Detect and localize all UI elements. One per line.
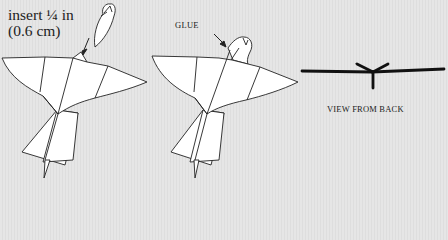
bird-figure-glue [152,37,298,178]
origami-bird-diagram: insert ¼ in (0.6 cm) GLUE VIEW FROM BACK [0,0,448,184]
insert-metric-label: (0.6 cm) [8,22,61,39]
insert-annotation: insert ¼ in (0.6 cm) [8,7,74,39]
view-from-back-caption: VIEW FROM BACK [327,104,404,114]
arrow-glue [214,34,226,47]
insert-measure-label: insert ¼ in [8,6,74,23]
tail-tip [44,160,50,178]
wing-shape [2,57,147,114]
head-piece [94,4,115,47]
bird-figure-insert [2,52,147,178]
glue-annotation: GLUE [175,20,199,30]
arrow-insert [82,38,89,55]
back-view-figure [302,64,444,88]
